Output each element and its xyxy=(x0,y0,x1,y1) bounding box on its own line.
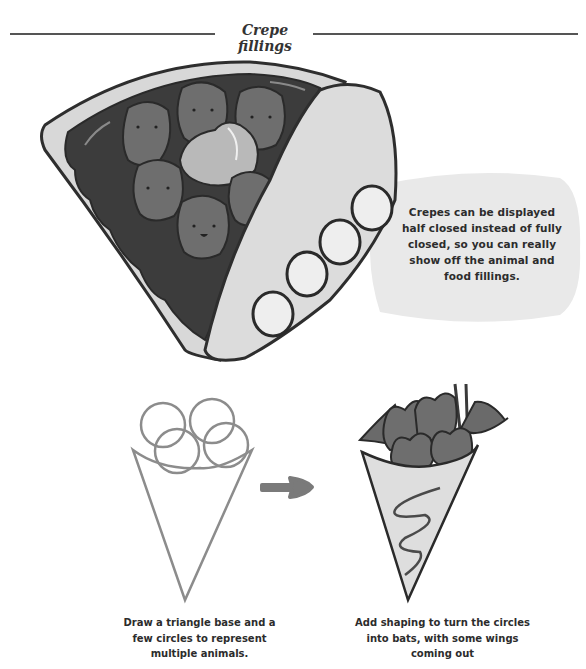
callout-text: Crepes can be displayed half closed inst… xyxy=(398,204,566,284)
banana-slice xyxy=(287,252,327,296)
strawberry-animal xyxy=(177,196,228,259)
arrow-right-icon xyxy=(262,478,312,497)
banana-slice xyxy=(253,292,293,336)
strawberry-animal xyxy=(133,160,182,221)
step-2-caption: Add shaping to turn the circles into bat… xyxy=(355,615,530,662)
sketch-cone-illustration xyxy=(133,399,252,600)
banana-slice xyxy=(352,186,392,230)
bat-cat-cone-illustration xyxy=(360,384,508,600)
half-closed-crepe-illustration xyxy=(42,62,397,360)
strawberry-animal xyxy=(123,102,170,165)
illustration-canvas xyxy=(0,0,586,669)
banana-slice xyxy=(320,220,360,264)
step-1-caption: Draw a triangle base and a few circles t… xyxy=(112,615,287,662)
